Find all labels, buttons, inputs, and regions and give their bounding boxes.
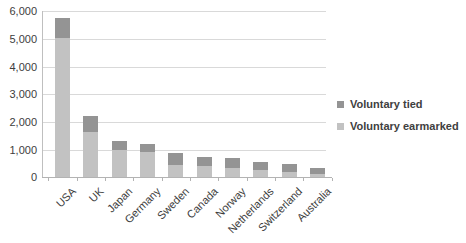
y-tick-label-3-000: 3,000 [0, 87, 37, 101]
x-axis-tick [275, 178, 276, 181]
gridline-5000 [42, 39, 326, 40]
y-tick-label-4-000: 4,000 [0, 60, 37, 74]
bar-segment-canada-voluntary-tied [197, 157, 212, 166]
x-axis-tick [218, 178, 219, 181]
bar-segment-japan-voluntary-earmarked [112, 150, 127, 178]
x-axis-tick [105, 178, 106, 181]
y-axis-line [42, 11, 43, 178]
bar-segment-canada-voluntary-earmarked [197, 166, 212, 177]
bar-segment-usa-voluntary-earmarked [55, 38, 70, 178]
x-axis-tick [77, 178, 78, 181]
x-axis-line [42, 177, 332, 178]
legend-label-voluntary-earmarked: Voluntary earmarked [350, 120, 459, 132]
x-axis-tick [133, 178, 134, 181]
bar-segment-germany-voluntary-tied [140, 144, 155, 152]
bar-segment-australia-voluntary-tied [310, 168, 325, 174]
legend-item-voluntary-tied: Voluntary tied [337, 97, 459, 111]
bar-segment-uk-voluntary-earmarked [83, 132, 98, 178]
legend: Voluntary tiedVoluntary earmarked [337, 97, 459, 141]
x-category-label-uk: UK [87, 185, 106, 204]
x-axis-tick [48, 178, 49, 181]
x-axis-tick [190, 178, 191, 181]
bar-segment-netherlands-voluntary-earmarked [253, 170, 268, 178]
bar-segment-germany-voluntary-earmarked [140, 152, 155, 177]
legend-marker-voluntary-earmarked [337, 123, 344, 130]
bar-segment-sweden-voluntary-earmarked [168, 165, 183, 177]
gridline-4000 [42, 67, 326, 68]
y-tick-label-2-000: 2,000 [0, 115, 37, 129]
chart: 01,0002,0003,0004,0005,0006,000USAUKJapa… [0, 0, 466, 243]
bar-segment-switzerland-voluntary-tied [282, 164, 297, 172]
x-axis-tick [162, 178, 163, 181]
x-axis-tick [303, 178, 304, 181]
y-tick-label-1-000: 1,000 [0, 143, 37, 157]
bar-segment-norway-voluntary-earmarked [225, 168, 240, 177]
legend-item-voluntary-earmarked: Voluntary earmarked [337, 119, 459, 133]
bar-segment-netherlands-voluntary-tied [253, 162, 268, 169]
legend-marker-voluntary-tied [337, 101, 344, 108]
x-axis-tick [247, 178, 248, 181]
y-tick-label-6-000: 6,000 [0, 4, 37, 18]
gridline-3000 [42, 94, 326, 95]
legend-label-voluntary-tied: Voluntary tied [350, 98, 423, 110]
bar-segment-japan-voluntary-tied [112, 141, 127, 149]
bar-segment-sweden-voluntary-tied [168, 153, 183, 165]
gridline-6000 [42, 11, 326, 12]
x-category-label-usa: USA [53, 185, 77, 209]
bar-segment-uk-voluntary-tied [83, 116, 98, 132]
y-tick-label-0: 0 [0, 170, 37, 184]
bar-segment-usa-voluntary-tied [55, 18, 70, 37]
x-axis-tick [332, 178, 333, 181]
bar-segment-norway-voluntary-tied [225, 158, 240, 168]
y-tick-label-5-000: 5,000 [0, 32, 37, 46]
